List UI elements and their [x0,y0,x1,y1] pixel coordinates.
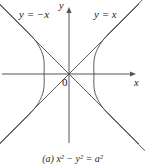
asymptote-positive-label: y = x [94,9,117,20]
x-axis-label: x [134,78,139,89]
y-axis-label: y [59,1,64,12]
asymptote-negative-label: y = −x [19,9,49,20]
y-axis-arrowhead [66,7,71,13]
hyperbola-left-branch [0,0,44,154]
figure-caption: (a) x² − y² = a² [0,153,145,165]
x-axis-arrowhead [130,71,136,76]
origin-label: 0 [62,77,68,88]
hyperbola-plot [0,0,145,167]
hyperbola-figure: y = −x y = x y x 0 (a) x² − y² = a² [0,0,145,167]
